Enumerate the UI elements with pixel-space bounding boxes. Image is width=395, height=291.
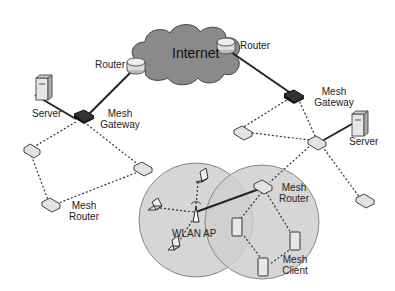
- mesh-client-label: Mesh Client: [278, 254, 312, 276]
- mesh-network-diagram: Internet Router Router Server Server Mes…: [0, 0, 395, 291]
- mesh-router-left-label: Mesh Router: [66, 200, 102, 222]
- server-right-label: Server: [349, 136, 378, 147]
- router-left-icon: [127, 58, 145, 74]
- gateway-right-label: Mesh Gateway: [314, 86, 354, 108]
- link-router-gateway-right: [228, 50, 292, 94]
- server-right-icon: [352, 111, 368, 136]
- pda-icon: [258, 258, 268, 276]
- mesh-router-icon: [234, 126, 252, 140]
- router-left-label: Router: [95, 59, 125, 70]
- pda-icon: [290, 232, 300, 250]
- wlan-ap-label: WLAN AP: [172, 228, 216, 239]
- server-left-label: Server: [32, 108, 61, 119]
- diagram-canvas: [0, 0, 395, 291]
- pda-icon: [232, 218, 242, 236]
- mesh-gateway-right-icon: [284, 90, 304, 104]
- mesh-router-icon: [308, 136, 326, 150]
- internet-label: Internet: [172, 48, 219, 59]
- mesh-router-icon: [356, 194, 374, 208]
- server-left-icon: [36, 75, 52, 100]
- router-right-label: Router: [240, 40, 270, 51]
- mesh-router-right-label: Mesh Router: [276, 182, 312, 204]
- mesh-router-icon: [42, 198, 60, 212]
- router-right-icon: [217, 38, 235, 54]
- gateway-left-label: Mesh Gateway: [100, 108, 140, 130]
- link-server-meshrouter-right: [322, 124, 352, 141]
- mesh-router-icon: [24, 144, 40, 158]
- mesh-router-icon: [134, 162, 152, 176]
